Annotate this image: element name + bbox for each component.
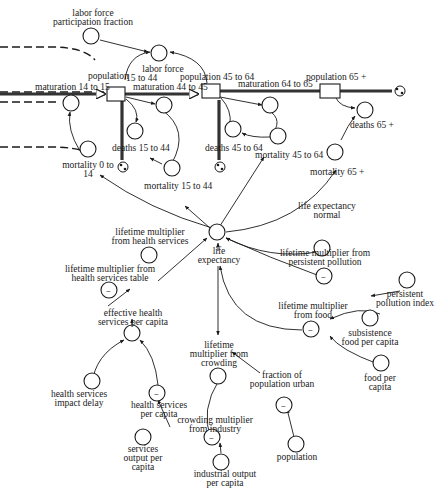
label-fpc-2: capita [369,382,392,392]
aux-persistent-pollution-index[interactable] [399,272,415,288]
aux-mortality-15-to-44[interactable] [164,160,180,176]
labels: labor force participation fraction labor… [35,8,434,488]
cloud-icon [395,86,405,96]
aux-deaths-65-plus[interactable] [357,102,373,118]
label-hsid-2: impact delay [55,398,104,408]
dashed-link-top [0,47,95,60]
label-lmpp-2: persistent pollution [288,257,361,267]
aux-services-output-per-capita[interactable] [135,429,151,445]
table-marker: ~ [106,287,111,296]
label-deaths-15-44: deaths 15 to 44 [112,143,170,153]
label-mat-44-45: maturation 44 to 45 [133,82,208,92]
aux-subsistence-food-per-capita[interactable] [362,310,378,326]
label-lmhs-2: from health services [111,236,188,246]
label-le-normal-2: normal [314,210,341,220]
causal-links [69,40,400,453]
cloud-icon [118,162,128,172]
aux-maturation-14-to-15[interactable] [63,95,79,111]
label-pop-15-44-a: population [88,71,129,81]
aux-health-services-impact-delay[interactable] [84,373,100,389]
label-sopc-3: capita [132,462,155,472]
stock-flow-diagram: ~ ~ ~ ~ ~ ~ labor force participation fr… [0,0,442,488]
aux-life-expectancy[interactable] [209,224,225,240]
label-lfpf-2: participation fraction [53,17,133,27]
aux-population[interactable] [288,436,304,452]
label-population: population [277,452,318,462]
label-pop-65: population 65 + [306,72,366,82]
label-cmi-2: from industry [189,424,241,434]
dashed-link-low [0,147,80,150]
label-lmc-3: crowding [201,358,237,368]
table-marker: ~ [209,434,214,443]
aux-labor-force[interactable] [151,45,167,61]
aux-industrial-output-per-capita[interactable] [213,454,229,470]
label-mort-15-44: mortality 15 to 44 [144,181,213,191]
label-sfpc-2: food per capita [342,337,400,347]
aux-mortality-65-plus[interactable] [327,144,343,160]
aux-food-per-capita[interactable] [373,355,389,371]
label-mat-14-15: maturation 14 to 15 [35,82,110,92]
label-mort-65: mortality 65 + [310,167,364,177]
aux-maturation-64-to-65[interactable] [262,97,278,113]
label-lmf-2: from food [294,310,333,320]
aux-effective-health-services-per-capita[interactable] [124,325,140,341]
aux-lifetime-multiplier-health-services[interactable] [141,247,157,263]
label-iopc-2: per capita [206,478,244,488]
label-deaths-65: deaths 65 + [350,120,394,130]
aux-mortality-0-to-14[interactable] [80,141,96,157]
label-lmhst-2: health services table [71,273,148,283]
label-mort-0-14-2: 14 [83,169,93,179]
cloud-icon [215,162,225,172]
table-marker: ~ [308,326,313,335]
stock-population-65-plus[interactable] [320,84,340,98]
aux-maturation-44-to-45[interactable] [156,97,172,113]
table-marker: ~ [154,390,159,399]
external-inflows [0,47,105,150]
aux-lifetime-multiplier-crowding[interactable] [210,368,226,384]
aux-deaths-45-to-64[interactable] [225,121,241,137]
aux-labor-force-participation-fraction[interactable] [83,28,99,44]
label-le-2: expectancy [198,255,241,265]
label-hspc-2: per capita [140,409,178,419]
label-fpu-2: population urban [250,379,315,389]
aux-mortality-45-to-64[interactable] [270,128,286,144]
stock-population-15-to-44[interactable] [107,87,125,101]
table-marker: ~ [321,273,326,282]
table-marker: ~ [281,402,286,411]
aux-deaths-15-to-44[interactable] [127,123,143,139]
label-mat-64-65: maturation 64 to 65 [238,79,313,89]
label-ehspc-2: services per capita [98,317,169,327]
label-mort-45-64: mortality 45 to 64 [255,150,324,160]
label-ppi-2: pollution index [376,298,434,308]
